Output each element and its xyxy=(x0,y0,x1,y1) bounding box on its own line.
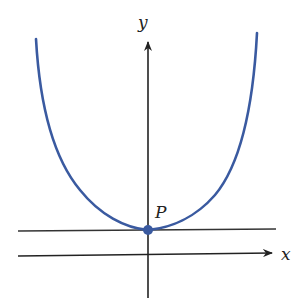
diagram: y x P xyxy=(0,0,307,308)
y-axis-label: y xyxy=(137,12,148,32)
point-label: P xyxy=(154,202,167,222)
x-axis-label: x xyxy=(281,244,291,264)
curve xyxy=(36,33,257,230)
point-p-marker xyxy=(143,225,153,235)
x-axis xyxy=(18,253,272,256)
